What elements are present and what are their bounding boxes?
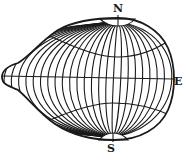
south-label: S <box>107 143 115 154</box>
meridian-line <box>113 22 121 137</box>
east-label: E <box>174 76 182 87</box>
meridian-line <box>99 22 118 137</box>
north-label: N <box>113 3 123 14</box>
globe-diagram <box>0 0 187 160</box>
meridians <box>0 22 172 137</box>
